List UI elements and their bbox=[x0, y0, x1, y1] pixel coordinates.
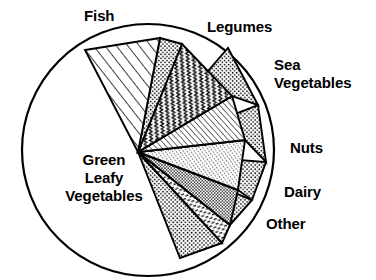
label-green-leafy-line3: Vegetables bbox=[48, 188, 160, 205]
label-green-leafy-line1: Green bbox=[48, 152, 160, 169]
label-fish: Fish bbox=[84, 8, 114, 25]
pie-chart: Fish Legumes Sea Vegetables Nuts Dairy O… bbox=[0, 0, 376, 280]
label-sea-vegetables-line2: Vegetables bbox=[274, 75, 351, 92]
label-nuts: Nuts bbox=[290, 140, 323, 157]
label-legumes: Legumes bbox=[207, 19, 272, 36]
label-dairy: Dairy bbox=[284, 184, 321, 201]
label-sea-vegetables-line1: Sea bbox=[274, 57, 300, 74]
label-other: Other bbox=[266, 216, 306, 233]
label-green-leafy-line2: Leafy bbox=[48, 170, 160, 187]
